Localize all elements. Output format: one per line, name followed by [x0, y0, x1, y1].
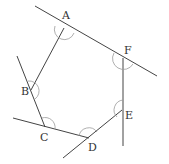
lines-group: [13, 6, 157, 158]
vertex-label-f: F: [124, 44, 132, 57]
line-through-A-F: [35, 6, 157, 76]
vertex-label-b: B: [21, 85, 29, 98]
angle-arc-e: [114, 100, 123, 117]
vertex-label-c: C: [40, 131, 48, 144]
hexagon-angle-diagram: ABCDEF: [0, 0, 169, 164]
vertex-label-e: E: [125, 109, 133, 122]
segment-A-B: [31, 28, 64, 90]
angle-arcs-group: [28, 26, 133, 136]
line-through-C-D: [13, 118, 89, 138]
vertex-label-d: D: [88, 141, 97, 154]
angle-arc-b: [28, 81, 39, 99]
vertex-label-a: A: [61, 9, 71, 22]
angle-arc-a: [54, 26, 74, 40]
angle-arc-d: [79, 128, 97, 136]
vertex-labels-group: ABCDEF: [21, 9, 133, 154]
